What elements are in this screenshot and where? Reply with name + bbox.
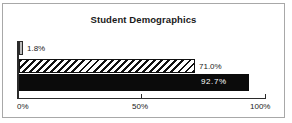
x-axis-tick [17, 94, 18, 99]
bar-data-label: 1.8% [27, 45, 45, 53]
x-axis-tick-label: 100% [250, 103, 270, 111]
x-axis-tick [265, 94, 266, 99]
bar[interactable] [19, 59, 195, 73]
x-axis-tick [141, 94, 142, 99]
plot-area: 1.8% 71.0% 92.7% [17, 37, 269, 99]
chart-frame: Student Demographics 1.8% 71.0% 92.7% 0%… [2, 3, 285, 118]
x-axis-tick-label: 50% [132, 103, 148, 111]
bar-data-label: 92.7% [201, 78, 227, 86]
chart-title: Student Demographics [3, 14, 284, 25]
bar-data-label: 71.0% [199, 63, 222, 71]
x-axis-tick-label: 0% [17, 103, 29, 111]
x-axis-labels: 0% 50% 100% [17, 103, 269, 115]
bar[interactable] [19, 41, 23, 55]
